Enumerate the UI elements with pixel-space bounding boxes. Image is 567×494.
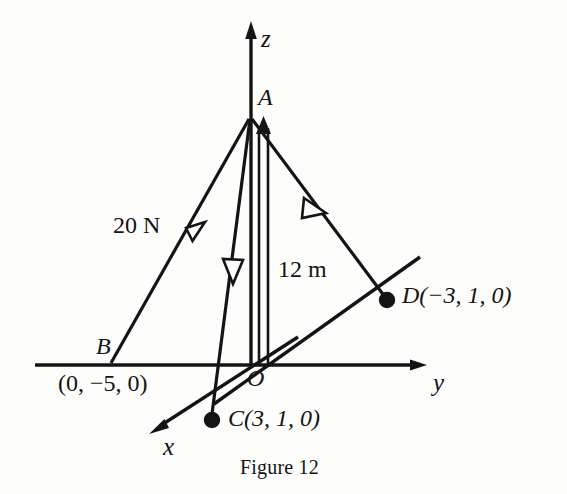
cable-ab-group [111, 119, 249, 363]
y-axis-arrowhead [410, 360, 427, 371]
point-a-label: A [258, 85, 273, 109]
z-axis-label: z [261, 26, 271, 51]
figure-container: z y x A O B (0, −5, 0) C(3, 1, 0) D(−3, … [0, 0, 567, 494]
point-b-coordinates: (0, −5, 0) [58, 371, 148, 395]
point-d-label: D(−3, 1, 0) [402, 283, 512, 307]
cable-a-to-b [111, 119, 249, 363]
figure-caption: Figure 12 [240, 457, 319, 477]
point-d-dot [379, 292, 395, 308]
point-b-label: B [96, 334, 111, 358]
force-magnitude-label: 20 N [113, 213, 160, 237]
height-measure-label: 12 m [278, 257, 327, 281]
x-axis-label: x [163, 434, 174, 459]
force-arrowhead-ac [223, 259, 243, 284]
point-c-label: C(3, 1, 0) [228, 406, 320, 430]
y-axis-label: y [433, 370, 444, 395]
z-axis-arrowhead [245, 21, 257, 39]
point-o-label: O [247, 366, 264, 390]
point-c-dot [204, 412, 220, 428]
height-dimension-group [256, 116, 271, 365]
